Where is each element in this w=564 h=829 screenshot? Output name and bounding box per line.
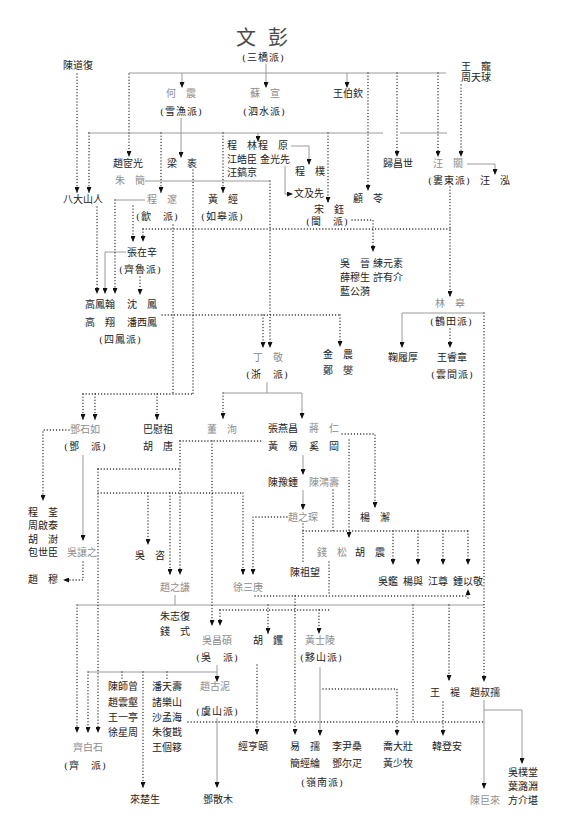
solid-connector: [285, 166, 292, 194]
school-xueyu: (雪漁派): [160, 106, 203, 118]
person-he-zhen: 何 震: [166, 88, 196, 100]
person-zhu-zhifu: 朱志復: [160, 611, 190, 623]
person-su-xuan: 蘇 宣: [250, 88, 280, 100]
school-yushan: (虞山派): [196, 706, 239, 718]
person-hu-tang: 胡 唐: [143, 441, 173, 453]
person-xue-musheng: 薛穆生: [340, 272, 370, 284]
person-bao-shichen: 包世臣: [28, 547, 58, 559]
dotted-connector: [352, 220, 373, 251]
person-lin-gao: 林 皋: [435, 298, 465, 310]
person-chen-zuwang: 陳祖望: [290, 567, 320, 579]
person-jiang-ren: 蔣 仁: [309, 423, 339, 435]
school-sanqiao: (三橋派): [242, 52, 285, 64]
person-yang-yu: 楊與: [403, 576, 423, 588]
person-qiao-dazhuang: 喬大壯: [383, 741, 413, 753]
person-wang-guan: 汪 關: [433, 158, 463, 170]
person-huang-yi: 黃 易: [268, 441, 298, 453]
school-qilu: (齊魯派): [119, 264, 162, 276]
person-gui-changshi: 歸昌世: [383, 158, 413, 170]
root-master-name: 文 彭: [236, 27, 288, 49]
person-chen-yuzhong: 陳豫鍾: [268, 477, 298, 489]
person-xi-gang: 奚 岡: [309, 441, 339, 453]
person-lian-yuansu: 練元素: [373, 258, 403, 270]
dotted-connector: [253, 517, 287, 574]
person-jiang-haochen: 江皓臣: [227, 154, 257, 166]
person-hu-shu: 胡 澍: [28, 534, 58, 546]
school-loudong: (婁東派): [428, 175, 471, 187]
person-ba-weizu: 巴慰祖: [143, 424, 173, 436]
person-huang-jing: 黃 經: [208, 194, 238, 206]
person-zhang-yanchang: 張燕昌: [268, 423, 298, 435]
person-yang-xie: 楊 澥: [360, 512, 390, 524]
person-deng-shiru: 鄧石如: [70, 424, 100, 436]
dotted-connector: [64, 562, 83, 580]
person-lan-gongyi: 藍公漪: [340, 286, 370, 298]
person-chen-hongshou: 陳鴻壽: [309, 477, 339, 489]
school-zhe: (浙 派): [246, 369, 289, 381]
school-yishan: (黟山派): [300, 652, 343, 664]
connector-layer: [0, 0, 564, 829]
person-wu-jin: 吳 晉: [340, 258, 370, 270]
person-song-jue: 宋 鈺: [314, 204, 344, 216]
person-jing-hengyi: 經亨頤: [238, 741, 268, 753]
person-wang-ti: 王 褆: [430, 687, 460, 699]
school-hetian: (鶴田派): [430, 316, 473, 328]
person-sha-menghai: 沙孟海: [152, 712, 182, 724]
person-shen-feng: 沈 鳳: [127, 299, 157, 311]
person-zhou-qitai: 周啟泰: [28, 520, 58, 532]
person-wang-gaojing: 汪鎬京: [227, 167, 257, 179]
person-gao-xiang: 高 翔: [85, 317, 115, 329]
dotted-connector: [342, 434, 375, 507]
person-huang-shaomu: 黃少牧: [383, 758, 413, 770]
person-hu-jue: 胡 钁: [253, 635, 283, 647]
person-wang-geyi: 王個簃: [152, 742, 182, 754]
person-dong-xun: 董 洵: [207, 424, 237, 436]
person-zhao-yunhe: 趙雲壑: [108, 697, 138, 709]
person-jian-jinglun: 簡經綸: [290, 758, 320, 770]
person-jin-guangxian: 金光先: [260, 154, 290, 166]
person-zhu-fukan: 朱復戡: [152, 727, 182, 739]
person-deng-erya: 鄧尔疋: [332, 758, 362, 770]
person-lai-chusheng: 來楚生: [130, 794, 160, 806]
dotted-connector: [323, 689, 397, 735]
person-ye-luyuan: 葉潞淵: [508, 781, 538, 793]
person-wu-rangzhi: 吳讓之: [67, 547, 97, 559]
person-zhao-guni: 趙古泥: [200, 681, 230, 693]
person-zhu-leshan: 諸樂山: [152, 697, 182, 709]
person-wang-yiting: 王一亭: [108, 712, 138, 724]
solid-connector: [291, 146, 309, 164]
person-wu-jian: 吳鑑: [378, 576, 398, 588]
person-hu-zhen: 胡 震: [355, 547, 385, 559]
person-cheng-quan: 程 荃: [28, 507, 58, 519]
person-zhou-tianqiu: 周天球: [461, 72, 491, 84]
person-zhao-mu: 趙 穆: [28, 574, 58, 586]
person-xu-sangeng: 徐三庚: [233, 582, 263, 594]
school-wu: (吳 派): [196, 652, 239, 664]
person-liang-zhi: 梁 袠: [167, 158, 197, 170]
person-jiang-zun: 江尊: [428, 576, 448, 588]
person-zhang-zaixin: 張在辛: [127, 247, 157, 259]
person-wang-ruizhang: 王睿章: [437, 352, 467, 364]
person-zhao-shuru: 趙叔孺: [470, 687, 500, 699]
person-zhong-yijing: 鍾以敬: [453, 576, 483, 588]
school-lingnan: (嶺南派): [301, 777, 344, 789]
person-wen-jixian: 文及先: [294, 188, 324, 200]
person-zhao-yiguang: 趙宧光: [113, 158, 143, 170]
person-li-yinsang: 李尹桑: [332, 741, 362, 753]
school-she: (歙 派): [136, 211, 179, 223]
person-han-dengan: 韓登安: [432, 741, 462, 753]
person-yi-ru: 易 孺: [290, 741, 320, 753]
person-xu-youjie: 許有介: [373, 272, 403, 284]
person-wu-putang: 吳樸堂: [508, 767, 538, 779]
school-sishui: (泗水派): [243, 106, 286, 118]
person-wu-zi: 吳 咨: [135, 550, 165, 562]
lineage-diagram: 文 彭 (三橋派) 陳道復 王 寵 周天球 何 震 蘇 宣 王伯欽 (雪漁派) …: [0, 0, 564, 829]
solid-connector: [467, 164, 495, 174]
person-gu-ling: 顧 苓: [353, 193, 383, 205]
school-deng: (鄧 派): [64, 441, 107, 453]
person-pan-xifeng: 潘西鳳: [127, 317, 157, 329]
person-gao-fenghan: 高鳳翰: [85, 299, 115, 311]
person-wu-changshuo: 吳昌碩: [202, 635, 232, 647]
dotted-connectors: [43, 73, 484, 787]
school-rugao: (如皋派): [201, 211, 244, 223]
